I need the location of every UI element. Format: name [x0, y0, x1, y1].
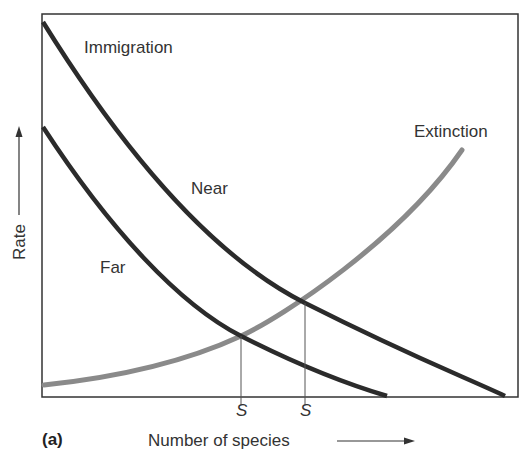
x-axis-arrow-icon [404, 438, 415, 445]
island-biogeography-figure: Immigration Near Far Extinction S S (a) … [0, 0, 522, 473]
x-axis-label: Number of species [148, 431, 290, 451]
immigration-near-curve [43, 22, 505, 396]
near-label: Near [191, 179, 228, 199]
y-axis-label: Rate [10, 224, 30, 260]
equilibrium-far-label: S [236, 401, 247, 421]
immigration-label: Immigration [84, 38, 173, 58]
panel-label: (a) [42, 430, 63, 450]
immigration-far-curve [43, 127, 387, 396]
plot-frame [42, 14, 518, 397]
equilibrium-near-label: S [300, 401, 311, 421]
y-axis-arrow-icon [16, 126, 23, 137]
far-label: Far [100, 258, 126, 278]
plot-svg [0, 0, 522, 473]
extinction-label: Extinction [414, 122, 488, 142]
